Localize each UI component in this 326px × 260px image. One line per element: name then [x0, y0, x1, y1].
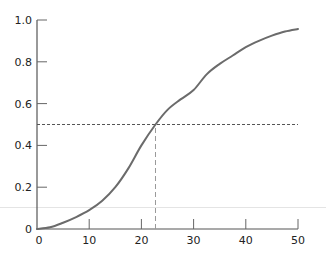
x-tick-label: 0: [36, 234, 43, 247]
x-tick-label: 40: [239, 234, 253, 247]
y-tick-label: 0.6: [15, 98, 33, 111]
x-axis: 01020304050: [36, 219, 306, 247]
x-tick-label: 20: [134, 234, 148, 247]
data-series: [37, 29, 298, 229]
x-tick-label: 50: [291, 234, 305, 247]
y-tick-label: 0: [25, 223, 32, 236]
curve-line: [37, 29, 298, 229]
y-tick-label: 0.2: [15, 181, 33, 194]
y-tick-label: 0.4: [15, 139, 33, 152]
y-tick-label: 0.8: [15, 56, 33, 69]
x-tick-label: 10: [82, 234, 96, 247]
reference-lines: [37, 125, 298, 230]
chart-canvas: 00.20.40.60.81.0 01020304050: [0, 0, 326, 260]
y-tick-label: 1.0: [15, 14, 33, 27]
x-tick-label: 30: [187, 234, 201, 247]
